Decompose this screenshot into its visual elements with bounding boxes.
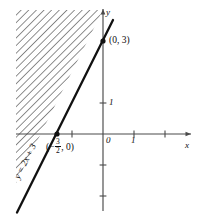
x-intercept-suffix: , 0) [61,142,74,152]
shaded-region [16,10,196,215]
x-intercept-label: (−32, 0) [46,138,74,154]
x-tick-label-1: 1 [131,136,136,145]
hatched-fill [16,10,196,215]
y-tick-label-1: 1 [109,98,114,107]
inequality-graph [0,0,199,224]
x-axis-arrow [186,132,192,137]
x-axis-label: x [185,141,189,150]
axis-arrowheads [101,9,191,136]
origin-tick-label: 0 [106,136,111,145]
y-axis-label: y [106,8,110,17]
fraction-denominator: 2 [55,147,61,155]
x-intercept-prefix: (− [46,142,55,152]
point-y-intercept [100,38,105,43]
x-intercept-fraction: 32 [55,138,61,154]
figure-container: x y 0 1 1 (0, 3) (−32, 0) y = 2x + 3 [0,0,199,224]
point-x-intercept [54,131,59,136]
y-intercept-label: (0, 3) [109,36,130,46]
axis-ticks [72,103,165,196]
